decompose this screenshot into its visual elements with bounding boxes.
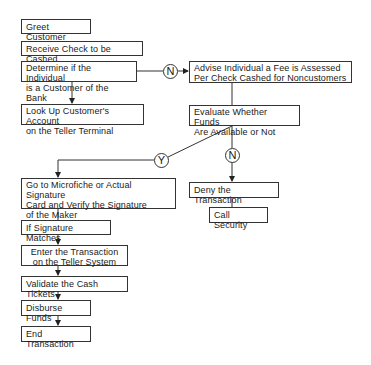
node-advise-fee: Advise Individual a Fee is Assessed Per … bbox=[189, 61, 352, 83]
decision-label-no-customer: N bbox=[163, 64, 178, 79]
decision-label-funds-no: N bbox=[225, 148, 240, 163]
node-receive-check: Receive Check to be Cashed bbox=[21, 41, 143, 56]
node-deny-transaction: Deny the Transaction bbox=[189, 182, 279, 198]
node-validate-tickets: Validate the Cash Tickets bbox=[21, 276, 128, 292]
node-end-transaction: End Transaction bbox=[21, 326, 91, 342]
node-signature-matches: If Signature Matches bbox=[21, 220, 111, 235]
node-determine-customer: Determine if the Individual is a Custome… bbox=[21, 61, 137, 82]
node-call-security: Call Security bbox=[209, 207, 268, 223]
decision-label-funds-yes: Y bbox=[154, 153, 169, 168]
node-greet-customer: Greet Customer bbox=[21, 19, 91, 34]
node-lookup-account: Look Up Customer's Account on the Teller… bbox=[21, 104, 144, 125]
node-verify-signature: Go to Microfiche or Actual Signature Car… bbox=[21, 178, 176, 209]
node-disburse-funds: Disburse Funds bbox=[21, 300, 91, 316]
node-enter-transaction: Enter the Transaction on the Teller Syst… bbox=[21, 245, 128, 266]
node-evaluate-funds: Evaluate Whether Funds Are Available or … bbox=[189, 105, 300, 126]
